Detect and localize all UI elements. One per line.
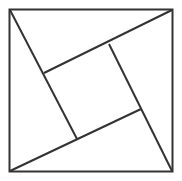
line-top-left <box>10 10 77 139</box>
line-bottom-right <box>109 44 172 171</box>
outer-square <box>10 10 173 172</box>
line-top-right <box>44 10 172 73</box>
line-bottom-left <box>10 109 141 171</box>
pythagorean-square-diagram <box>0 0 182 181</box>
